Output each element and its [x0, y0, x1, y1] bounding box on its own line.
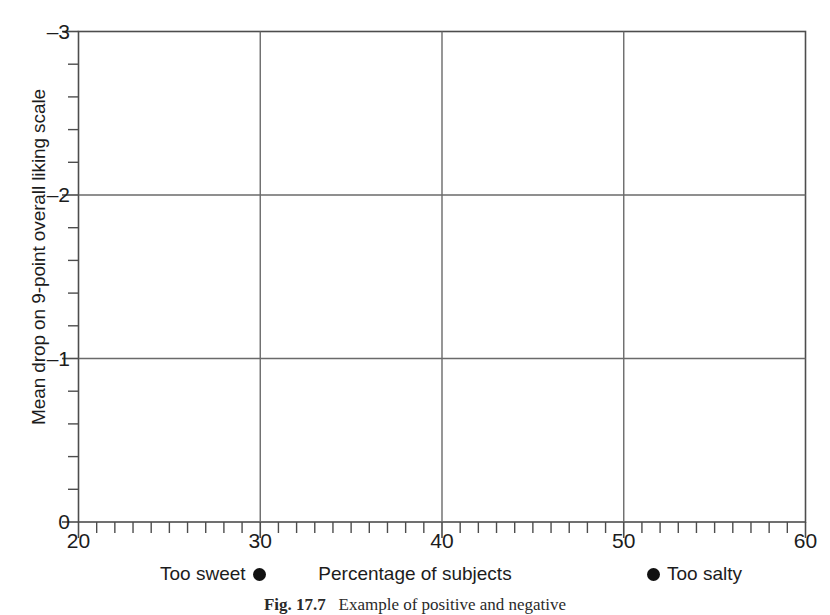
y-major-ticks: [62, 32, 79, 523]
x-tick-label-50: 50: [594, 530, 654, 551]
legend-too-salty: Too salty: [647, 563, 742, 585]
x-tick-label-30: 30: [230, 530, 290, 551]
filled-circle-icon: [253, 568, 266, 581]
filled-circle-icon: [647, 568, 660, 581]
y-minor-ticks: [68, 64, 79, 489]
legend-label-too-salty: Too salty: [667, 563, 742, 585]
y-tick-label: –2: [24, 184, 70, 205]
y-tick-label: –3: [24, 21, 70, 42]
x-tick-label-60: 60: [776, 530, 830, 551]
legend-label-too-sweet: Too sweet: [160, 563, 246, 585]
figure-caption: Fig. 17.7 Example of positive and negati…: [0, 595, 830, 615]
y-tick-label: 0: [24, 511, 70, 532]
x-tick-label-40: 40: [412, 530, 472, 551]
x-tick-label-20: 20: [49, 530, 109, 551]
figure-number: Fig. 17.7: [264, 595, 326, 614]
legend-too-sweet: Too sweet: [160, 563, 266, 585]
figure-caption-text: Example of positive and negative: [339, 595, 567, 614]
y-axis-title: Mean drop on 9-point overall liking scal…: [28, 37, 50, 477]
y-tick-label: –1: [24, 348, 70, 369]
